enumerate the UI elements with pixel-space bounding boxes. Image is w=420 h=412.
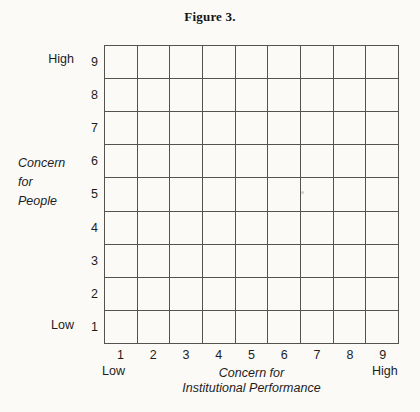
- x-axis-title-line-1: Concern for: [104, 366, 399, 381]
- grid-cell[interactable]: [268, 211, 301, 244]
- grid-cell[interactable]: [366, 211, 399, 244]
- grid-cell[interactable]: [170, 211, 203, 244]
- grid-cell[interactable]: [333, 145, 366, 178]
- x-tick-4: 4: [202, 348, 235, 364]
- grid-cell[interactable]: [105, 178, 138, 211]
- grid-cell[interactable]: [202, 244, 235, 277]
- y-tick-5: 5: [80, 178, 98, 211]
- grid-cell[interactable]: [105, 310, 138, 343]
- grid-cell[interactable]: [268, 244, 301, 277]
- grid-cell[interactable]: [105, 145, 138, 178]
- grid-cell[interactable]: [105, 244, 138, 277]
- grid-cell[interactable]: [366, 178, 399, 211]
- grid-cell[interactable]: [333, 277, 366, 310]
- grid-cell[interactable]: [235, 79, 268, 112]
- grid-cell[interactable]: [300, 211, 333, 244]
- y-tick-9: 9: [80, 45, 98, 78]
- grid-cell[interactable]: [170, 79, 203, 112]
- grid-cell[interactable]: [105, 46, 138, 79]
- grid-cell[interactable]: [105, 211, 138, 244]
- grid-cell[interactable]: [300, 178, 333, 211]
- grid-cell[interactable]: [366, 277, 399, 310]
- grid-cell[interactable]: [268, 310, 301, 343]
- grid-cell[interactable]: [202, 46, 235, 79]
- grid-cell[interactable]: [268, 46, 301, 79]
- y-axis-low-label: Low: [34, 318, 74, 332]
- grid-cell[interactable]: [366, 244, 399, 277]
- grid-cell[interactable]: [366, 145, 399, 178]
- grid-cell[interactable]: [137, 145, 170, 178]
- grid-cell[interactable]: [366, 79, 399, 112]
- grid-cell[interactable]: [366, 46, 399, 79]
- grid-table: [104, 45, 399, 344]
- grid-cell[interactable]: [202, 310, 235, 343]
- grid-cell[interactable]: [333, 46, 366, 79]
- grid-cell[interactable]: [268, 79, 301, 112]
- y-tick-6: 6: [80, 145, 98, 178]
- scan-artifact-speck: [301, 191, 304, 194]
- grid-cell[interactable]: [333, 244, 366, 277]
- grid-cell[interactable]: [235, 277, 268, 310]
- grid-cell[interactable]: [333, 112, 366, 145]
- table-row: [105, 46, 399, 79]
- grid-cell[interactable]: [300, 244, 333, 277]
- x-tick-3: 3: [170, 348, 203, 364]
- grid-cell[interactable]: [300, 46, 333, 79]
- table-row: [105, 211, 399, 244]
- grid-cell[interactable]: [300, 79, 333, 112]
- grid-cell[interactable]: [170, 178, 203, 211]
- grid-cell[interactable]: [137, 277, 170, 310]
- grid-cell[interactable]: [170, 112, 203, 145]
- grid-cell[interactable]: [235, 211, 268, 244]
- grid-cell[interactable]: [235, 178, 268, 211]
- grid-cell[interactable]: [333, 211, 366, 244]
- grid-cell[interactable]: [333, 79, 366, 112]
- x-tick-9: 9: [366, 348, 399, 364]
- grid-cell[interactable]: [333, 178, 366, 211]
- y-tick-4: 4: [80, 211, 98, 244]
- grid-cell[interactable]: [268, 112, 301, 145]
- grid-cell[interactable]: [137, 178, 170, 211]
- grid-cell[interactable]: [300, 310, 333, 343]
- grid-cell[interactable]: [137, 46, 170, 79]
- grid-cell[interactable]: [170, 277, 203, 310]
- x-tick-2: 2: [137, 348, 170, 364]
- grid-cell[interactable]: [170, 244, 203, 277]
- table-row: [105, 178, 399, 211]
- grid-cell[interactable]: [202, 211, 235, 244]
- grid-cell[interactable]: [202, 112, 235, 145]
- grid-cell[interactable]: [235, 112, 268, 145]
- grid-cell[interactable]: [170, 145, 203, 178]
- grid-cell[interactable]: [202, 277, 235, 310]
- grid-cell[interactable]: [366, 310, 399, 343]
- grid-cell[interactable]: [105, 79, 138, 112]
- grid-cell[interactable]: [333, 310, 366, 343]
- grid-cell[interactable]: [235, 145, 268, 178]
- grid-cell[interactable]: [235, 244, 268, 277]
- grid-cell[interactable]: [105, 277, 138, 310]
- x-tick-6: 6: [268, 348, 301, 364]
- grid-cell[interactable]: [105, 112, 138, 145]
- grid-cell[interactable]: [300, 145, 333, 178]
- x-axis-ticks: 1 2 3 4 5 6 7 8 9: [104, 348, 399, 364]
- grid-cell[interactable]: [268, 178, 301, 211]
- grid-cell[interactable]: [137, 244, 170, 277]
- grid-cell[interactable]: [235, 46, 268, 79]
- x-tick-7: 7: [301, 348, 334, 364]
- grid-cell[interactable]: [137, 112, 170, 145]
- grid-cell[interactable]: [170, 46, 203, 79]
- grid-cell[interactable]: [300, 112, 333, 145]
- grid-cell[interactable]: [268, 145, 301, 178]
- grid-cell[interactable]: [137, 310, 170, 343]
- grid-cell[interactable]: [366, 112, 399, 145]
- table-row: [105, 277, 399, 310]
- grid-cell[interactable]: [235, 310, 268, 343]
- grid-cell[interactable]: [170, 310, 203, 343]
- grid-cell[interactable]: [202, 178, 235, 211]
- grid-cell[interactable]: [268, 277, 301, 310]
- grid-cell[interactable]: [137, 211, 170, 244]
- grid-cell[interactable]: [137, 79, 170, 112]
- grid-cell[interactable]: [300, 277, 333, 310]
- grid-cell[interactable]: [202, 145, 235, 178]
- grid-cell[interactable]: [202, 79, 235, 112]
